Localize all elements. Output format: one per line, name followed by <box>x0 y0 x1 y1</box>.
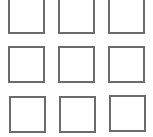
grid-square-r1-c0[interactable] <box>8 46 45 83</box>
grid-square-r2-c0[interactable] <box>9 96 46 133</box>
grid-square-r1-c2[interactable] <box>108 46 145 83</box>
grid-square-r0-c2[interactable] <box>108 0 145 34</box>
grid-square-r1-c1[interactable] <box>58 46 95 83</box>
square-grid <box>0 0 153 137</box>
grid-square-r0-c0[interactable] <box>8 0 45 34</box>
grid-square-r2-c1[interactable] <box>59 96 96 133</box>
grid-square-r0-c1[interactable] <box>58 0 95 34</box>
grid-square-r2-c2[interactable] <box>109 95 146 132</box>
